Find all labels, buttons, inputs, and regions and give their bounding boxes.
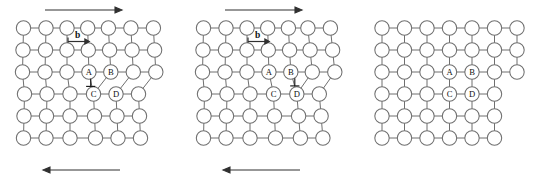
atom	[38, 65, 52, 79]
atom	[81, 43, 95, 57]
atom	[131, 87, 145, 101]
atom	[102, 43, 116, 57]
atom	[63, 109, 77, 123]
atom	[16, 43, 30, 57]
atom	[397, 131, 411, 145]
atom	[420, 43, 434, 57]
atom-layer: ABCD	[195, 21, 342, 145]
burgers-label: b	[75, 30, 80, 40]
atom	[197, 109, 211, 123]
atom	[281, 21, 295, 35]
atom	[397, 65, 411, 79]
top-shear-arrow	[45, 7, 122, 13]
atom	[87, 109, 101, 123]
lattice-svg: ABCDb	[180, 0, 360, 180]
atom	[88, 131, 102, 145]
atom	[442, 43, 456, 57]
atom	[293, 131, 307, 145]
atom	[146, 21, 160, 35]
panel-2: ABCDb	[180, 0, 360, 180]
atom	[375, 65, 389, 79]
atom	[465, 43, 479, 57]
atom	[487, 21, 501, 35]
lattice-svg: ABCDb	[0, 0, 180, 180]
atom	[303, 43, 317, 57]
atom	[133, 131, 147, 145]
atom-label-B: B	[288, 67, 294, 77]
bottom-shear-arrow	[43, 167, 120, 173]
atom	[16, 21, 30, 35]
atom	[316, 131, 330, 145]
atom	[442, 131, 456, 145]
atom	[39, 21, 53, 35]
atom	[420, 131, 434, 145]
atom	[487, 43, 501, 57]
atom	[149, 65, 163, 79]
atom	[39, 109, 53, 123]
atom	[487, 87, 501, 101]
atom-label-B: B	[108, 67, 114, 77]
atom	[325, 43, 339, 57]
atom	[375, 87, 389, 101]
atom	[219, 21, 233, 35]
atom	[124, 21, 138, 35]
atom	[442, 109, 456, 123]
atom	[240, 65, 254, 79]
atom	[196, 21, 210, 35]
atom	[268, 131, 282, 145]
atom	[240, 43, 254, 57]
atom-label-D: D	[294, 89, 300, 99]
atom	[291, 109, 305, 123]
atom	[397, 21, 411, 35]
atom	[240, 21, 254, 35]
atom	[111, 131, 125, 145]
burgers-label: b	[255, 30, 260, 40]
atom	[196, 43, 210, 57]
atom	[375, 43, 389, 57]
atom	[220, 87, 234, 101]
atom	[243, 109, 257, 123]
top-shear-arrow	[225, 7, 302, 13]
atom	[328, 65, 342, 79]
atom	[465, 109, 479, 123]
atom	[17, 109, 31, 123]
atom	[312, 87, 326, 101]
atom	[39, 131, 53, 145]
atom	[132, 109, 146, 123]
atom	[420, 109, 434, 123]
atom	[301, 21, 315, 35]
atom	[510, 65, 524, 79]
atom	[375, 109, 389, 123]
atom	[218, 43, 232, 57]
atom	[60, 43, 74, 57]
atom-label-A: A	[86, 67, 93, 77]
atom	[420, 65, 434, 79]
atom	[81, 21, 95, 35]
atom	[420, 21, 434, 35]
atom	[219, 131, 233, 145]
atom	[323, 21, 337, 35]
dislocation-symbol	[86, 79, 95, 87]
atom	[375, 131, 389, 145]
atom-label-B: B	[469, 67, 475, 77]
atom	[487, 131, 501, 145]
atom-label-A: A	[266, 67, 273, 77]
atom	[397, 87, 411, 101]
atom	[218, 65, 232, 79]
atom	[261, 21, 275, 35]
lattice-svg: ABCD	[360, 0, 540, 180]
panel-1: ABCDb	[0, 0, 180, 180]
atom	[243, 131, 257, 145]
atom	[40, 87, 54, 101]
atom	[375, 21, 389, 35]
atom	[147, 43, 161, 57]
atom	[487, 65, 501, 79]
atom	[63, 87, 77, 101]
atom	[126, 65, 140, 79]
atom	[282, 43, 296, 57]
atom-label-C: C	[447, 89, 453, 99]
atom	[195, 65, 209, 79]
atom	[219, 109, 233, 123]
atom	[305, 65, 319, 79]
panel-3: ABCD	[360, 0, 540, 180]
